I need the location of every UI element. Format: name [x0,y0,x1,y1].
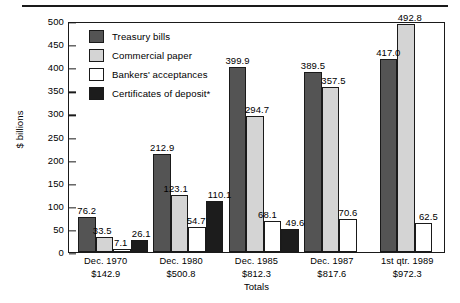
x-label-period: 1st qtr. 1989 [370,255,445,268]
y-tick-label: 0 [30,248,64,258]
y-tick-label: 200 [30,156,64,166]
bar-value-label: 294.7 [245,105,269,115]
bar [113,249,131,252]
bar [415,223,433,252]
bar [264,221,282,252]
plot-area: Treasury billsCommercial paperBankers' a… [68,22,445,253]
y-tick-label: 300 [30,110,64,120]
bar-value-label: 123.1 [164,184,188,194]
y-tick-label: 50 [30,225,64,235]
x-label-total: $817.6 [294,268,369,281]
bar [246,116,264,252]
x-axis-group-label: Dec. 1985$812.3 [219,255,294,280]
x-label-total: $972.3 [370,268,445,281]
x-label-total: $500.8 [143,268,218,281]
y-tick-label: 100 [30,202,64,212]
x-label-total: $142.9 [68,268,143,281]
bar-value-label: 7.1 [114,238,128,248]
x-axis-group-label: Dec. 1987$817.6 [294,255,369,280]
bar-value-label: 62.5 [419,212,438,222]
bar-group: 212.9123.154.7110.1 [153,23,223,252]
bar [229,67,247,252]
y-axis-tick-labels: 500450400350300250200150100500 [24,0,64,303]
y-axis-title: $ billions [14,85,25,175]
y-tick-label: 400 [30,63,64,73]
x-axis-group-label: 1st qtr. 1989$972.3 [370,255,445,280]
bar-group: 76.233.57.126.1 [78,23,148,252]
x-label-period: Dec. 1985 [219,255,294,268]
bar [206,201,224,252]
bar-value-label: 389.5 [301,61,325,71]
x-label-period: Dec. 1987 [294,255,369,268]
x-axis-group-label: Dec. 1980$500.8 [143,255,218,280]
x-label-total: $812.3 [219,268,294,281]
top-divider-rule [22,5,448,7]
bar-value-label: 54.7 [187,216,206,226]
bar [131,240,149,252]
bar-value-label: 399.9 [225,56,249,66]
bar-group: 389.5357.570.6 [304,23,374,252]
x-label-period: Dec. 1970 [68,255,143,268]
y-tick-label: 350 [30,87,64,97]
bar-series-container: 76.233.57.126.1212.9123.154.7110.1399.92… [69,23,444,252]
x-axis-title: Totals [68,281,445,292]
chart-figure: $ billions 50045040035030025020015010050… [0,0,460,303]
bar-value-label: 26.1 [132,229,151,239]
bar-value-label: 68.1 [258,210,277,220]
bar-value-label: 492.8 [398,13,422,23]
bar-value-label: 76.2 [77,206,96,216]
bar [380,59,398,252]
bar [96,237,114,252]
bar [188,227,206,252]
bar [339,219,357,252]
bar-value-label: 357.5 [321,76,345,86]
bar-group: 399.9294.768.149.6 [229,23,299,252]
bar-value-label: 70.6 [338,208,357,218]
bar [397,24,415,252]
bar [153,154,171,252]
bar-group: 417.0492.862.5 [380,23,450,252]
bar [281,229,299,252]
bar [304,72,322,252]
y-tick-label: 500 [30,17,64,27]
bar-value-label: 417.0 [376,48,400,58]
x-label-period: Dec. 1980 [143,255,218,268]
bar-value-label: 212.9 [150,143,174,153]
y-tick-label: 250 [30,133,64,143]
y-tick-label: 450 [30,40,64,50]
y-tick-label: 150 [30,179,64,189]
bar-value-label: 110.1 [208,190,232,200]
x-axis-group-label: Dec. 1970$142.9 [68,255,143,280]
bar [322,87,340,252]
bar-value-label: 49.6 [286,218,305,228]
bar-value-label: 33.5 [93,226,112,236]
